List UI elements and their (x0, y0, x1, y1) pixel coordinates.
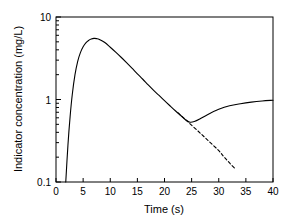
x-axis-ticks (56, 178, 273, 182)
extrapolation-dashed-line (178, 113, 235, 169)
x-tick-label: 25 (186, 186, 198, 197)
x-tick-label: 5 (80, 186, 86, 197)
y-tick-label: 0.1 (37, 177, 51, 188)
x-tick-label: 0 (53, 186, 59, 197)
y-axis-title: Indicator concentration (mg/L) (12, 26, 24, 172)
y-tick-label: 1 (45, 95, 51, 106)
y-axis-tick-labels: 0.1110 (37, 12, 51, 188)
x-tick-label: 15 (132, 186, 144, 197)
x-tick-label: 20 (159, 186, 171, 197)
plot-frame (56, 17, 273, 182)
indicator-curve-line (66, 38, 273, 182)
indicator-dilution-chart: 0510152025303540 0.1110 Time (s) Indicat… (0, 0, 289, 224)
x-tick-label: 40 (267, 186, 279, 197)
y-tick-label: 10 (40, 12, 52, 23)
chart-figure: 0510152025303540 0.1110 Time (s) Indicat… (0, 0, 289, 224)
x-tick-label: 30 (213, 186, 225, 197)
y-axis-ticks (56, 17, 61, 182)
x-tick-label: 10 (105, 186, 117, 197)
x-axis-title: Time (s) (144, 203, 184, 215)
x-axis-tick-labels: 0510152025303540 (53, 186, 279, 197)
x-tick-label: 35 (240, 186, 252, 197)
